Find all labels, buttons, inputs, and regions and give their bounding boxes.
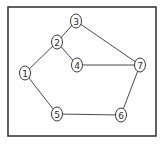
graph-node-5: 5	[52, 107, 63, 121]
edge-1-2	[25, 42, 57, 73]
node-label: 1	[22, 69, 28, 79]
graph-node-1: 1	[20, 66, 31, 80]
edge-3-7	[76, 21, 140, 65]
edge-6-7	[121, 65, 140, 115]
graph-node-3: 3	[71, 14, 82, 28]
graph-node-4: 4	[72, 58, 83, 72]
node-label: 7	[137, 61, 143, 71]
graph-diagram: 1234567	[0, 0, 161, 146]
node-label: 2	[54, 38, 60, 48]
nodes-layer: 1234567	[20, 14, 146, 122]
graph-node-6: 6	[116, 108, 127, 122]
node-label: 4	[74, 61, 80, 71]
node-label: 3	[73, 17, 79, 27]
node-label: 5	[54, 110, 60, 120]
edge-5-6	[57, 114, 121, 115]
edge-1-5	[25, 73, 57, 114]
node-label: 6	[118, 111, 124, 121]
graph-node-2: 2	[52, 35, 63, 49]
graph-node-7: 7	[135, 58, 146, 72]
